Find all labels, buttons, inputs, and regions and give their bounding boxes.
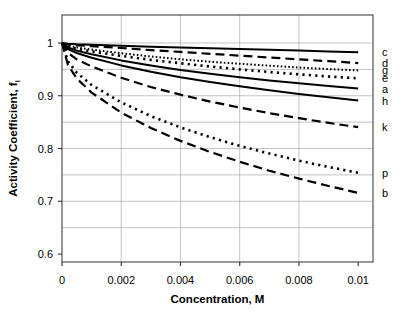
x-tick-label: 0.01 — [347, 274, 368, 286]
y-tick-label: 0.9 — [38, 90, 53, 102]
x-tick-label: 0.002 — [107, 274, 135, 286]
y-tick-label: 1 — [47, 37, 53, 49]
x-tick-label: 0.006 — [226, 274, 254, 286]
series-label-a: a — [382, 83, 389, 95]
x-tick-label: 0.004 — [167, 274, 195, 286]
series-b — [62, 43, 358, 193]
x-axis-title: Concentration, M — [171, 293, 265, 305]
y-tick-label: 0.6 — [38, 248, 53, 260]
series-label-h: h — [382, 95, 388, 107]
series-label-b: b — [382, 187, 388, 199]
y-axis-title: Activity Coefficient, fi — [7, 80, 22, 196]
x-tick-label: 0.008 — [285, 274, 313, 286]
series-label-p: p — [382, 167, 388, 179]
x-tick-label: 0 — [59, 274, 65, 286]
chart-svg: 0.60.70.80.9100.0020.0040.0060.0080.01Co… — [0, 0, 405, 320]
series-label-k: k — [382, 121, 388, 133]
y-tick-label: 0.7 — [38, 195, 53, 207]
y-tick-label: 0.8 — [38, 143, 53, 155]
series-line-b — [62, 43, 358, 193]
activity-coefficient-chart: 0.60.70.80.9100.0020.0040.0060.0080.01Co… — [0, 0, 405, 320]
